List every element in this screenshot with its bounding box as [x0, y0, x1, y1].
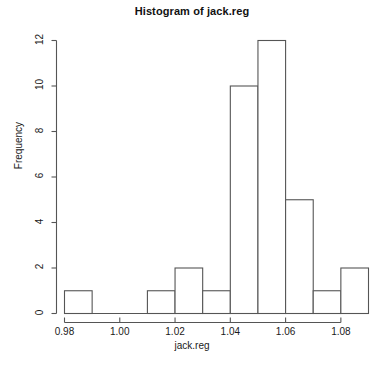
x-axis-tick-label: 1.02: [155, 326, 195, 337]
histogram-bar: [286, 200, 314, 314]
x-axis-tick-label: 1.06: [266, 326, 306, 337]
histogram-bar: [313, 291, 341, 314]
bars-group: [65, 41, 369, 314]
x-axis-tick-label: 1.00: [100, 326, 140, 337]
x-axis-tick-label: 1.04: [210, 326, 250, 337]
y-axis-tick-label: 8: [33, 117, 44, 143]
histogram-svg: [0, 0, 384, 367]
histogram-bar: [341, 268, 369, 314]
y-axis-tick-label: 10: [33, 72, 44, 98]
y-axis-tick-label: 6: [33, 163, 44, 189]
x-axis-tick-label: 1.08: [321, 326, 361, 337]
y-axis-tick-label: 12: [33, 26, 44, 52]
histogram-bar: [147, 291, 175, 314]
histogram-bar: [203, 291, 231, 314]
y-axis-tick-label: 0: [33, 299, 44, 325]
histogram-plot: Histogram of jack.reg 024681012 0.981.00…: [0, 0, 384, 367]
histogram-bar: [258, 41, 286, 314]
y-axis-label: Frequency: [13, 106, 24, 186]
plot-area: [0, 0, 384, 367]
x-axis-tick-label: 0.98: [45, 326, 85, 337]
histogram-bar: [65, 291, 93, 314]
x-axis-label: jack.reg: [0, 340, 384, 351]
y-axis-tick-label: 2: [33, 254, 44, 280]
histogram-bar: [175, 268, 203, 314]
y-axis-tick-label: 4: [33, 208, 44, 234]
histogram-bar: [230, 86, 258, 314]
axes-group: [52, 41, 369, 323]
